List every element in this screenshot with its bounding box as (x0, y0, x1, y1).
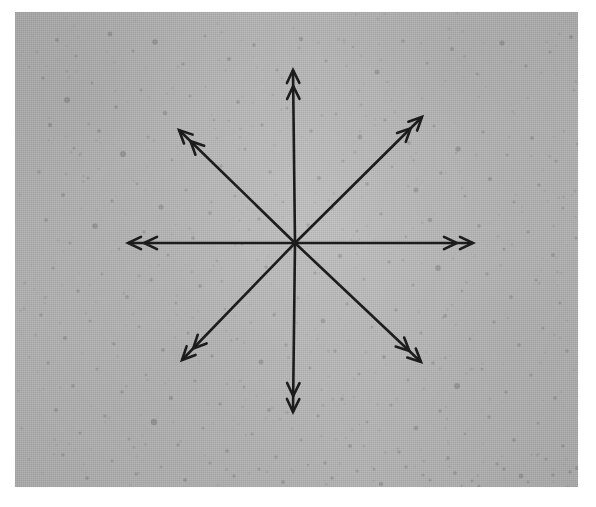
arrow-north (287, 70, 300, 243)
arrow-southeast (295, 243, 421, 362)
arrow-northwest (179, 130, 295, 243)
arrow-shaft (293, 70, 295, 243)
arrow-west (128, 237, 295, 249)
arrow-shaft (295, 117, 422, 243)
radial-arrow-overlay (0, 0, 596, 507)
arrow-group (128, 70, 473, 412)
arrow-shaft (182, 243, 295, 360)
figure-root (0, 0, 596, 507)
arrow-northeast (295, 117, 422, 243)
arrow-shaft (293, 243, 295, 412)
arrow-southwest (182, 243, 295, 360)
arrow-shaft (295, 243, 421, 362)
arrow-shaft (179, 130, 295, 243)
arrow-south (287, 243, 300, 412)
arrow-east (295, 237, 473, 249)
